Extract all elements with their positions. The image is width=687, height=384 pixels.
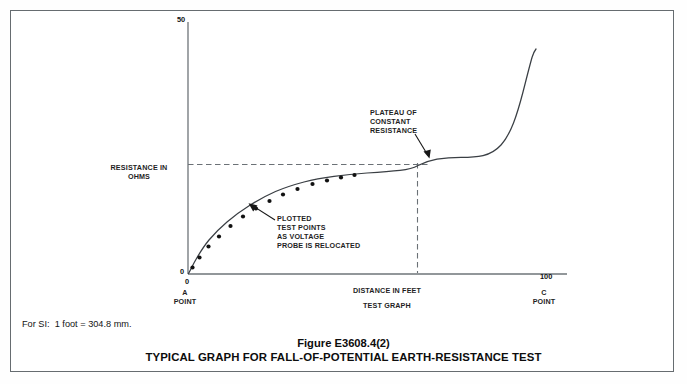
y-axis-zero-label: 0 [180, 267, 184, 276]
si-conversion-note: For SI: 1 foot = 304.8 mm. [22, 319, 132, 329]
c-point-word: POINT [522, 297, 566, 306]
plotted-points-annotation-line4: PROBE IS RELOCATED [277, 241, 360, 250]
y-axis-title-line2: OHMS [95, 172, 183, 181]
test-point [228, 224, 232, 228]
a-point-word: POINT [163, 297, 207, 306]
x-axis-max-label: 100 [540, 272, 552, 281]
a-point-letter: A [163, 288, 207, 297]
test-point [352, 173, 356, 177]
c-point-letter: C [522, 288, 566, 297]
test-point [295, 187, 299, 191]
plateau-annotation-line2: CONSTANT [370, 117, 411, 126]
plotted-points-arrow [249, 203, 276, 220]
test-graph-label: TEST GRAPH [327, 301, 447, 310]
test-point [217, 234, 221, 238]
test-point [281, 192, 285, 196]
test-point [241, 214, 245, 218]
test-point [267, 199, 271, 203]
plotted-test-points [190, 173, 356, 270]
resistance-curve [189, 49, 537, 274]
x-axis-zero-label: 0 [185, 277, 189, 286]
test-point [339, 175, 343, 179]
y-axis-max-label: 50 [177, 15, 185, 24]
figure-page: 50 0 0 100 RESISTANCE IN OHMS A POINT C … [0, 0, 687, 384]
plotted-points-annotation-line3: AS VOLTAGE [277, 232, 324, 241]
test-point [310, 182, 314, 186]
test-point [206, 244, 210, 248]
plateau-annotation-line1: PLATEAU OF [370, 108, 417, 117]
plotted-points-annotation-line1: PLOTTED [277, 214, 312, 223]
plateau-annotation-line3: RESISTANCE [370, 126, 417, 135]
figure-number-caption: Figure E3608.4(2) [0, 337, 687, 349]
figure-title-caption: TYPICAL GRAPH FOR FALL-OF-POTENTIAL EART… [0, 351, 687, 363]
test-point [190, 265, 194, 269]
test-point [197, 255, 201, 259]
y-axis-title-line1: RESISTANCE IN [95, 163, 183, 172]
plotted-points-annotation-line2: TEST POINTS [277, 223, 326, 232]
test-point [325, 178, 329, 182]
plateau-arrow [415, 134, 431, 159]
x-axis-title: DISTANCE IN FEET [327, 286, 447, 295]
